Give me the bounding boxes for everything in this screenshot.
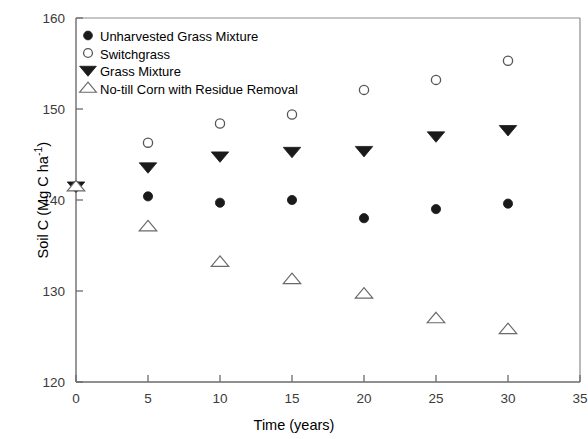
x-tick-label-0: 0: [72, 391, 80, 406]
legend-label-2: Grass Mixture: [100, 64, 181, 79]
series-0-markers: [71, 182, 512, 223]
y-tick-label-160: 160: [42, 11, 65, 26]
legend-label-1: Switchgrass: [100, 47, 170, 62]
point-s0-x10: [215, 198, 224, 207]
x-tick-label-15: 15: [284, 391, 299, 406]
x-tick-label-30: 30: [500, 391, 515, 406]
y-axis-title-superscript: -1: [32, 147, 44, 156]
point-s1-x15: [287, 110, 296, 119]
y-axis-title: Soil C (Mg C ha-1): [32, 80, 52, 320]
point-s2-x30: [499, 126, 516, 136]
x-tick-label-5: 5: [144, 391, 152, 406]
point-s0-x5: [143, 192, 152, 201]
point-s1-x30: [503, 56, 512, 65]
legend-marker-3: [80, 82, 97, 92]
legend-item-unharvested-grass-mixture: Unharvested Grass Mixture: [100, 27, 298, 45]
point-s0-x30: [503, 199, 512, 208]
point-s2-x5: [139, 163, 156, 173]
point-s3-x20: [355, 288, 372, 298]
x-tick-label-20: 20: [356, 391, 371, 406]
point-s2-x15: [283, 147, 300, 157]
series-2-markers: [67, 126, 516, 193]
y-axis-title-tail: ): [35, 142, 51, 147]
y-tick-label-120: 120: [42, 375, 65, 390]
point-s3-x5: [139, 220, 156, 230]
legend: Unharvested Grass Mixture Switchgrass Gr…: [100, 27, 298, 97]
point-s3-x15: [283, 273, 300, 283]
point-s3-x30: [499, 323, 516, 333]
point-s1-x10: [215, 119, 224, 128]
point-s0-x25: [431, 205, 440, 214]
point-s0-x20: [359, 214, 368, 223]
legend-item-no-till-corn: No-till Corn with Residue Removal: [100, 80, 298, 98]
point-s1-x20: [359, 85, 368, 94]
point-s1-x25: [431, 75, 440, 84]
legend-item-grass-mixture: Grass Mixture: [100, 62, 298, 80]
legend-label-3: No-till Corn with Residue Removal: [100, 82, 298, 97]
soil-carbon-scatter-chart: 120130140150160 05101520253035 Soil C (M…: [0, 0, 588, 439]
point-s3-x10: [211, 256, 228, 266]
x-axis-ticks: 05101520253035: [72, 375, 587, 406]
legend-marker-0: [84, 31, 93, 40]
point-s2-x10: [211, 152, 228, 162]
x-tick-label-35: 35: [572, 391, 587, 406]
x-tick-label-25: 25: [428, 391, 443, 406]
legend-marker-1: [84, 49, 93, 58]
y-axis-title-main: Soil C (Mg C ha: [35, 156, 51, 258]
legend-markers: [80, 31, 97, 92]
data-point-markers: [67, 56, 516, 333]
point-s2-x25: [427, 132, 444, 142]
legend-label-0: Unharvested Grass Mixture: [100, 29, 258, 44]
x-tick-label-10: 10: [212, 391, 227, 406]
point-s1-x5: [143, 138, 152, 147]
legend-marker-2: [80, 66, 97, 76]
x-axis-title: Time (years): [254, 417, 335, 433]
legend-item-switchgrass: Switchgrass: [100, 45, 298, 63]
point-s2-x20: [355, 146, 372, 156]
point-s3-x25: [427, 312, 444, 322]
point-s0-x15: [287, 195, 296, 204]
